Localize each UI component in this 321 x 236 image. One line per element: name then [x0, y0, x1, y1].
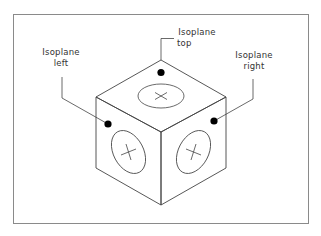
cross-plus-icon: [121, 144, 136, 160]
right-face-circle: [169, 125, 217, 180]
isometric-cube: [96, 60, 226, 205]
diagram-svg: [0, 0, 321, 236]
dot-top: [157, 69, 164, 76]
dot-right: [210, 117, 217, 124]
label-top-line1: Isoplane: [174, 27, 220, 38]
dot-left: [104, 120, 111, 127]
label-left-line2: left: [38, 58, 84, 69]
label-isoplane-left: Isoplane left: [38, 47, 84, 69]
leader-left: [62, 77, 108, 124]
cross-plus-icon: [186, 144, 201, 160]
label-right-line1: Isoplane: [231, 50, 277, 61]
leader-lines: [62, 39, 253, 125]
isoplane-diagram: Isoplane top Isoplane left Isoplane righ…: [0, 0, 321, 236]
cross-x-icon: [155, 93, 167, 100]
label-top-line2: top: [174, 38, 220, 49]
top-face-circle: [138, 84, 184, 108]
leader-top: [161, 39, 174, 61]
left-face-circle: [104, 125, 152, 180]
label-left-line1: Isoplane: [38, 47, 84, 58]
leader-dots: [104, 69, 217, 128]
label-isoplane-top: Isoplane top: [174, 27, 220, 49]
label-isoplane-right: Isoplane right: [231, 50, 277, 72]
label-right-line2: right: [231, 61, 277, 72]
